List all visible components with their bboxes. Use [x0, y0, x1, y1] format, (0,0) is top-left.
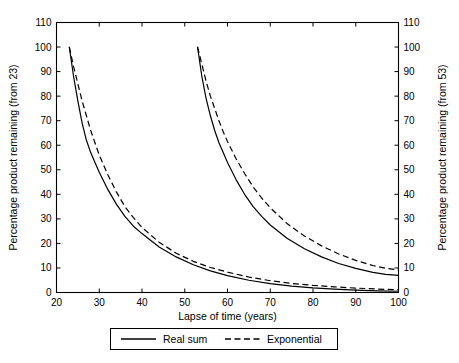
y-right-tick-label: 40: [404, 189, 416, 200]
y-right-tick-label: 50: [404, 164, 416, 175]
y-right-tick-label: 0: [404, 287, 410, 298]
y-left-tick-label: 70: [40, 115, 52, 126]
x-tick-label: 30: [94, 297, 106, 308]
y-left-tick-label: 20: [40, 238, 52, 249]
x-axis-title: Lapse of time (years): [178, 310, 277, 322]
y-right-tick-label: 10: [404, 262, 416, 273]
chart-figure: 2030405060708090100 01020304050607080901…: [0, 0, 459, 363]
y-left-tick-label: 110: [36, 17, 52, 28]
y-axis-right-title: Percentage product remaining (from 53): [436, 64, 448, 250]
y-left-tick-label: 40: [40, 189, 52, 200]
x-tick-label: 70: [265, 297, 277, 308]
y-right-tick-label: 110: [404, 17, 420, 28]
x-tick-label: 100: [390, 297, 407, 308]
x-tick-label: 50: [179, 297, 191, 308]
x-tick-label: 80: [307, 297, 319, 308]
y-left-tick-label: 10: [40, 262, 52, 273]
x-tick-label: 40: [136, 297, 148, 308]
x-axis-tick-labels: 2030405060708090100: [51, 297, 407, 308]
y-right-tick-label: 20: [404, 238, 416, 249]
y-left-tick-label: 100: [35, 42, 52, 53]
chart-background: [0, 0, 459, 363]
legend-label-exponential: Exponential: [267, 333, 322, 345]
legend-label-real-sum: Real sum: [163, 333, 208, 345]
y-left-tick-label: 50: [40, 164, 52, 175]
x-tick-label: 20: [51, 297, 63, 308]
legend: Real sum Exponential: [111, 329, 338, 350]
y-axis-left-title: Percentage product remaining (from 23): [7, 64, 19, 250]
y-right-tick-label: 60: [404, 140, 416, 151]
y-left-tick-label: 60: [40, 140, 52, 151]
y-right-tick-label: 70: [404, 115, 416, 126]
y-left-tick-label: 30: [40, 213, 52, 224]
line-chart-svg: 2030405060708090100 01020304050607080901…: [0, 0, 459, 363]
y-right-tick-label: 30: [404, 213, 416, 224]
y-right-tick-label: 80: [404, 91, 416, 102]
x-tick-label: 60: [222, 297, 234, 308]
y-left-tick-label: 80: [40, 91, 52, 102]
y-right-tick-label: 100: [404, 42, 421, 53]
x-tick-label: 90: [350, 297, 362, 308]
y-right-tick-label: 90: [404, 66, 416, 77]
y-left-tick-label: 0: [46, 287, 52, 298]
y-left-tick-label: 90: [40, 66, 52, 77]
